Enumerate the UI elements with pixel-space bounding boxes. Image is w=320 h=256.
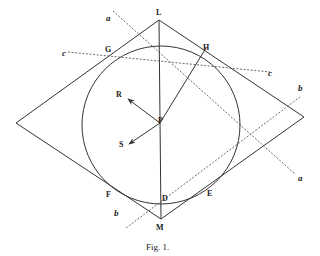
label-b-bottom: b bbox=[114, 208, 119, 218]
label-E: E bbox=[207, 189, 212, 198]
label-M: M bbox=[156, 223, 164, 232]
label-P: P bbox=[158, 116, 163, 125]
arrow-PR bbox=[128, 99, 160, 123]
figure-diagram: L M G H P R S D E F a a b b c c Fig. 1. bbox=[0, 0, 320, 256]
label-a-top: a bbox=[106, 13, 111, 23]
label-G: G bbox=[105, 45, 111, 54]
label-H: H bbox=[203, 43, 210, 52]
label-L: L bbox=[156, 8, 161, 17]
arrow-PS bbox=[129, 123, 160, 144]
label-R: R bbox=[116, 90, 122, 99]
label-c-right: c bbox=[268, 68, 272, 78]
dashed-line-c bbox=[68, 52, 270, 72]
label-F: F bbox=[106, 190, 111, 199]
label-a-bottom: a bbox=[298, 173, 303, 183]
label-c-left: c bbox=[62, 48, 66, 58]
label-b-top: b bbox=[298, 83, 303, 93]
figure-caption: Fig. 1. bbox=[146, 242, 169, 252]
label-S: S bbox=[119, 140, 124, 149]
label-D: D bbox=[162, 194, 168, 203]
